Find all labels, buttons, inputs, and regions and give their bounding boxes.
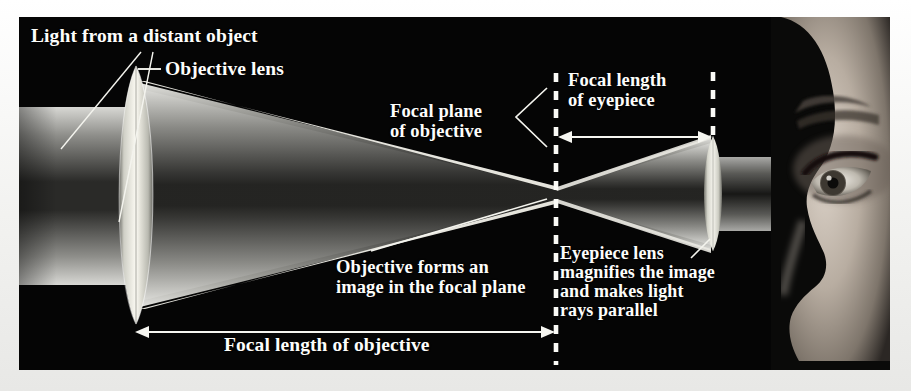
label-eyepiece-line3: and makes light — [560, 282, 715, 301]
label-focal-length-of-eyepiece: Focal length of eyepiece — [568, 71, 666, 110]
ray-diagram-svg — [19, 17, 890, 370]
label-light-from-distant-object: Light from a distant object — [31, 26, 258, 47]
optics-diagram-panel: Light from a distant object Objective le… — [19, 17, 890, 370]
label-eyepiece-lens-description: Eyepiece lens magnifies the image and ma… — [560, 244, 715, 320]
label-objective-forms-image: Objective forms an image in the focal pl… — [336, 258, 525, 297]
figure-root: Light from a distant object Objective le… — [0, 0, 911, 391]
label-focal-length-of-objective: Focal length of objective — [224, 335, 430, 356]
label-objective-forms-line2: image in the focal plane — [336, 278, 525, 298]
label-objective-lens: Objective lens — [165, 59, 284, 80]
label-eyepiece-line2: magnifies the image — [560, 263, 715, 282]
label-objective-forms-line1: Objective forms an — [336, 258, 525, 278]
observer-eye-photo — [771, 17, 890, 370]
label-focal-plane-line2: of objective — [390, 122, 482, 142]
label-eyepiece-line4: rays parallel — [560, 301, 715, 320]
label-focal-plane-of-objective: Focal plane of objective — [390, 102, 482, 141]
label-focal-length-eyepiece-line1: Focal length — [568, 71, 666, 91]
label-eyepiece-line1: Eyepiece lens — [560, 244, 715, 263]
label-focal-length-eyepiece-line2: of eyepiece — [568, 91, 666, 111]
label-focal-plane-line1: Focal plane — [390, 102, 482, 122]
